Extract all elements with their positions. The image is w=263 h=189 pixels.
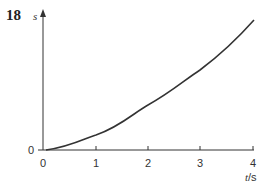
distance-time-chart: 0 0 1 2 3 4 s t/s	[0, 0, 263, 189]
distance-curve	[46, 20, 254, 150]
x-tick-0: 0	[40, 157, 46, 169]
x-tick-3: 3	[197, 157, 203, 169]
y-axis-label: s	[33, 10, 37, 22]
y-axis-arrow-icon	[40, 9, 46, 17]
x-axis-label: t/s	[245, 171, 257, 183]
x-tick-2: 2	[145, 157, 151, 169]
x-ticks	[96, 146, 253, 150]
y-tick-0: 0	[28, 144, 34, 156]
x-tick-4: 4	[250, 157, 256, 169]
x-tick-1: 1	[93, 157, 99, 169]
